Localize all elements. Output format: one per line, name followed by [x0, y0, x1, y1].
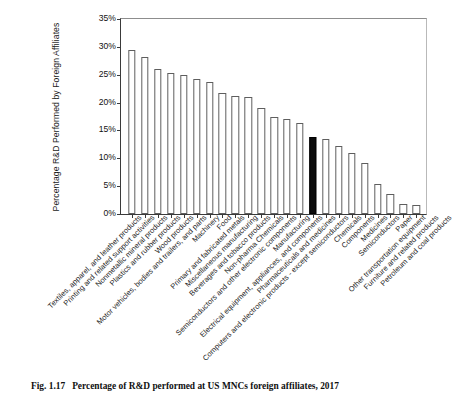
bar[interactable]: [296, 123, 303, 214]
bar-slot[interactable]: [345, 19, 358, 214]
bar[interactable]: [128, 50, 135, 214]
bar-slot[interactable]: [319, 19, 332, 214]
bar-highlighted[interactable]: [309, 137, 316, 214]
plot-area: 0%5%10%15%20%25%30%35%: [120, 18, 427, 215]
y-tick-label: 15%: [99, 124, 116, 134]
bar-slot[interactable]: [151, 19, 164, 214]
bar-slot[interactable]: [332, 19, 345, 214]
bar[interactable]: [232, 96, 239, 214]
y-tick-label: 20%: [99, 97, 116, 107]
bar[interactable]: [387, 194, 394, 214]
bar[interactable]: [335, 146, 342, 214]
bar-slot[interactable]: [126, 19, 139, 214]
bar[interactable]: [283, 119, 290, 214]
y-tick-label: 5%: [104, 180, 116, 190]
bar[interactable]: [322, 139, 329, 214]
bar-slot[interactable]: [164, 19, 177, 214]
bar-slot[interactable]: [358, 19, 371, 214]
x-axis-labels: Textiles, apparel, and leather productsP…: [120, 213, 446, 373]
bar[interactable]: [219, 93, 226, 214]
bar[interactable]: [193, 79, 200, 214]
y-tick-label: 10%: [99, 152, 116, 162]
bar[interactable]: [167, 73, 174, 215]
y-axis-title: Percentage R&D Performed by Foreign Affi…: [51, 7, 61, 227]
x-axis-label: Printing and related support activities: [62, 213, 157, 308]
y-tick-label: 30%: [99, 41, 116, 51]
bar-slot[interactable]: [203, 19, 216, 214]
bar-slot[interactable]: [177, 19, 190, 214]
bar-slot[interactable]: [268, 19, 281, 214]
bar[interactable]: [270, 117, 277, 214]
y-tick-label: 0%: [104, 208, 116, 218]
bar-slot[interactable]: [138, 19, 151, 214]
bar-slot[interactable]: [216, 19, 229, 214]
caption-number: Fig. 1.17: [31, 381, 65, 391]
y-tick-label: 25%: [99, 69, 116, 79]
bar-slot[interactable]: [397, 19, 410, 214]
bar[interactable]: [141, 57, 148, 214]
bar-slot[interactable]: [255, 19, 268, 214]
bar-slot[interactable]: [281, 19, 294, 214]
bar[interactable]: [361, 163, 368, 214]
bar-slot[interactable]: [371, 19, 384, 214]
y-tick-label: 35%: [99, 13, 116, 23]
bar[interactable]: [154, 69, 161, 214]
bar[interactable]: [258, 108, 265, 214]
bar[interactable]: [374, 184, 381, 214]
bar-slot[interactable]: [190, 19, 203, 214]
bar-slot[interactable]: [242, 19, 255, 214]
bar[interactable]: [180, 75, 187, 214]
bar[interactable]: [348, 153, 355, 214]
bar-slot[interactable]: [306, 19, 319, 214]
bar[interactable]: [245, 97, 252, 214]
caption-text: Percentage of R&D performed at US MNCs f…: [72, 381, 339, 391]
bar-slot[interactable]: [384, 19, 397, 214]
figure-caption: Fig. 1.17Percentage of R&D performed at …: [31, 381, 441, 391]
bar[interactable]: [206, 82, 213, 214]
bar-series: [121, 19, 426, 214]
bar-slot[interactable]: [229, 19, 242, 214]
bar-slot[interactable]: [410, 19, 423, 214]
bar-slot[interactable]: [294, 19, 307, 214]
